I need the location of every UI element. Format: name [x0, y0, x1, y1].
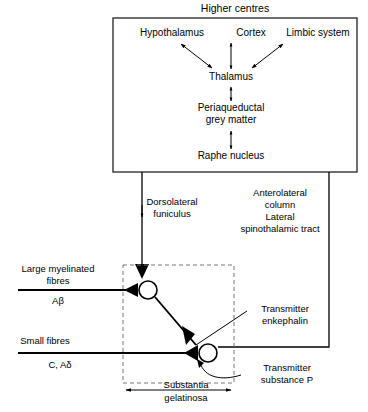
- node-raphe-nucleus: Raphe nucleus: [198, 150, 265, 161]
- label-dorsolateral-funiculus-line2: funiculus: [153, 208, 191, 219]
- label-small-fibres: Small fibres: [20, 335, 70, 346]
- node-periaqueductal-grey-matter-line2: grey matter: [206, 114, 257, 125]
- large-myelinated-fibre-terminal-arrowhead: [124, 283, 138, 297]
- label-transmitter-enkephalin-line1: Transmitter: [261, 303, 309, 314]
- small-fibre-terminal-arrowhead: [184, 345, 198, 361]
- label-substantia-gelatinosa-line2: gelatinosa: [164, 392, 208, 403]
- label-dorsolateral-funiculus-line1: Dorsolateral: [146, 196, 197, 207]
- dorsolateral-funiculus-terminal-arrowhead: [135, 264, 149, 279]
- label-large-fibre-type: Aβ: [52, 295, 64, 306]
- substance-p-leader-line: [200, 362, 241, 378]
- label-large-myelinated-fibres-line1: Large myelinated: [22, 263, 95, 274]
- node-limbic-system: Limbic system: [286, 27, 349, 38]
- arrow-hypothalamus-thalamus: [181, 44, 212, 68]
- label-transmitter-substance-p-line2: substance P: [261, 374, 313, 385]
- node-hypothalamus: Hypothalamus: [140, 27, 204, 38]
- label-large-myelinated-fibres-line2: fibres: [46, 275, 69, 286]
- figure-title: Higher centres: [201, 2, 269, 14]
- inhibitory-interneuron-cell-body: [139, 281, 157, 299]
- node-thalamus: Thalamus: [209, 71, 253, 82]
- label-substantia-gelatinosa-line1: Substantia: [164, 379, 210, 390]
- higher-centres-box: [113, 18, 357, 172]
- label-transmitter-enkephalin-line2: enkephalin: [262, 315, 308, 326]
- label-transmitter-substance-p-line1: Transmitter: [263, 362, 311, 373]
- label-anterolateral-line3: Lateral: [265, 211, 294, 222]
- label-anterolateral-line1: Anterolateral: [253, 187, 307, 198]
- node-periaqueductal-grey-matter-line1: Periaqueductal: [198, 102, 265, 113]
- arrow-limbic-thalamus: [252, 44, 283, 68]
- pain-gate-control-diagram: Higher centres Hypothalamus Cortex Limbi…: [0, 0, 368, 412]
- label-small-fibre-type: C, Aδ: [48, 359, 71, 370]
- label-anterolateral-line2: column: [265, 199, 296, 210]
- label-anterolateral-line4: spinothalamic tract: [240, 223, 320, 234]
- enkephalin-leader-line: [196, 311, 247, 345]
- diagram-canvas: Higher centres Hypothalamus Cortex Limbi…: [0, 0, 368, 412]
- projection-neuron-cell-body: [199, 344, 217, 362]
- node-cortex: Cortex: [236, 27, 265, 38]
